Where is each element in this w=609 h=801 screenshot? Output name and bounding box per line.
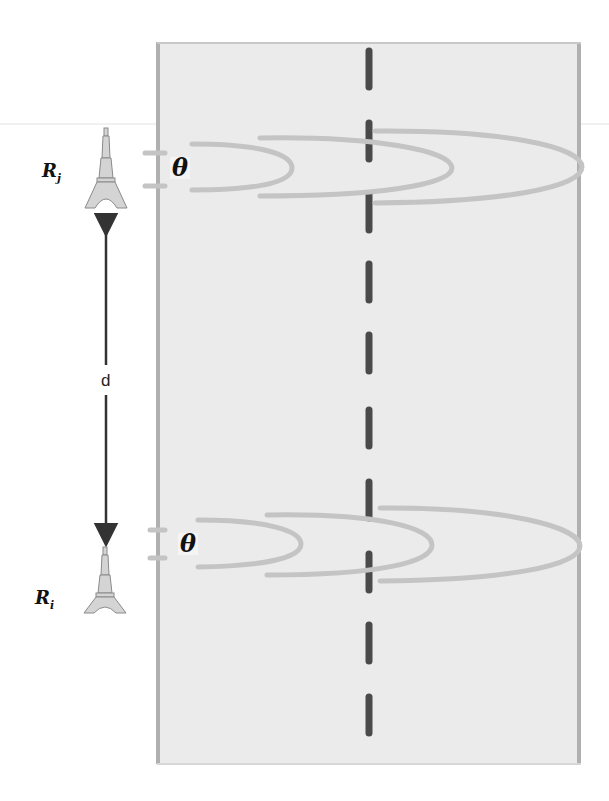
distance-label: d — [101, 369, 110, 393]
tower-label-ri-base: R — [35, 587, 50, 608]
eiffel-tower-icon — [84, 547, 126, 613]
tower-label-ri: Ri — [35, 587, 54, 612]
angle-label-top: θ — [170, 157, 190, 179]
angle-label-bottom: θ — [178, 533, 198, 555]
tower-label-rj-sub: j — [57, 172, 61, 185]
road-diagram — [0, 0, 609, 801]
eiffel-tower-icon — [85, 128, 127, 208]
tower-label-ri-sub: i — [50, 599, 54, 612]
tower-label-rj: Rj — [42, 160, 61, 185]
tower-label-rj-base: R — [42, 160, 57, 181]
